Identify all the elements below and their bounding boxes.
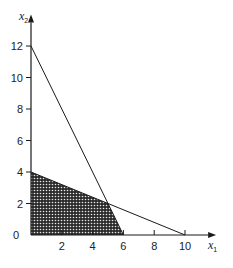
y-tick-label: 10 xyxy=(11,72,23,84)
y-tick-label: 6 xyxy=(17,135,23,147)
x-tick-label: 2 xyxy=(59,240,65,252)
y-axis-arrow xyxy=(28,14,34,22)
y-tick-label: 12 xyxy=(11,40,23,52)
x-tick-label: 8 xyxy=(151,240,157,252)
x-tick-label: 10 xyxy=(179,240,191,252)
y-tick-label: 2 xyxy=(17,198,23,210)
chart: 24681024681012 x2 x1 0 xyxy=(0,0,233,268)
feasible-region xyxy=(31,172,123,235)
y-tick-label: 8 xyxy=(17,103,23,115)
x-tick-label: 6 xyxy=(120,240,126,252)
y-axis-label: x2 xyxy=(18,9,28,24)
origin-label: 0 xyxy=(13,229,19,241)
y-tick-label: 4 xyxy=(17,166,23,178)
x-axis-label: x1 xyxy=(207,238,217,253)
x-tick-label: 4 xyxy=(90,240,96,252)
